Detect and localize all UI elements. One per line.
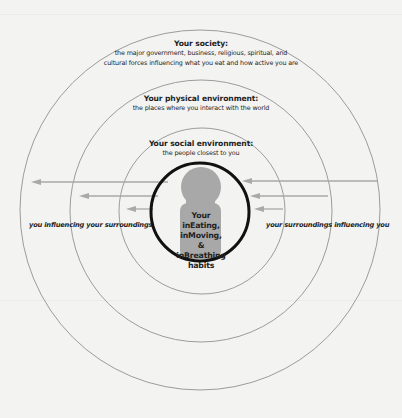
- ring-label-physical-environment: Your physical environment: the places wh…: [0, 94, 402, 114]
- arrowhead-icon: [126, 206, 136, 212]
- center-line: habits: [176, 261, 226, 271]
- influence-diagram: Your society: the major government, busi…: [0, 0, 402, 418]
- ring-label-society: Your society: the major government, busi…: [0, 39, 402, 68]
- arrowhead-icon: [242, 178, 252, 184]
- center-line: inMoving, &: [176, 231, 226, 251]
- center-line: inEating,: [176, 221, 226, 231]
- center-line: inBreathing: [176, 251, 226, 261]
- right-influence-label: your surroundings influencing you: [266, 221, 389, 229]
- ring-title: Your social environment:: [0, 139, 402, 149]
- left-influence-label: you influencing your surroundings: [29, 221, 152, 229]
- arrowhead-icon: [31, 179, 41, 185]
- ring-title: Your physical environment:: [0, 94, 402, 104]
- arrowhead-icon: [250, 193, 260, 199]
- ring-description: the places where you interact with the w…: [0, 104, 402, 114]
- ring-title: Your society:: [0, 39, 402, 49]
- ring-description: the major government, business, religiou…: [0, 49, 402, 59]
- ring-description: the people closest to you: [0, 149, 402, 159]
- arrowhead-icon: [79, 193, 89, 199]
- center-line: Your: [176, 211, 226, 221]
- arrowhead-icon: [254, 206, 264, 212]
- ring-label-social-environment: Your social environment: the people clos…: [0, 139, 402, 159]
- center-habits-label: Your inEating, inMoving, & inBreathing h…: [176, 211, 226, 271]
- inward-arrows: [242, 178, 377, 212]
- ring-description: cultural forces influencing what you eat…: [0, 59, 402, 69]
- outward-arrows: [31, 179, 168, 212]
